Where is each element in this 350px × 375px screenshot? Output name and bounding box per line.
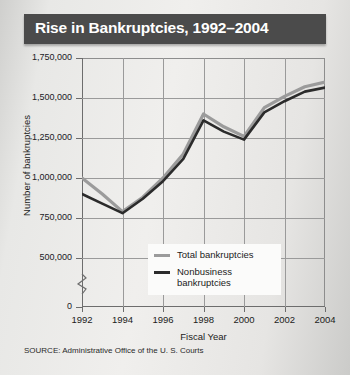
x-axis-tick xyxy=(123,307,124,312)
bankruptcies-chart-figure: Rise in Bankruptcies, 1992–2004 1,750,00… xyxy=(0,0,350,375)
page-title: Rise in Bankruptcies, 1992–2004 xyxy=(35,19,268,37)
series-line-total xyxy=(82,82,325,212)
y-axis-label: 0 xyxy=(6,301,72,311)
x-axis-tick xyxy=(285,307,286,312)
x-axis-tick xyxy=(204,307,205,312)
y-axis-label: 1,750,000 xyxy=(6,52,72,62)
y-axis-label: 1,000,000 xyxy=(6,172,72,182)
x-axis-label: 2004 xyxy=(303,314,347,325)
x-axis-tick xyxy=(244,307,245,312)
x-axis-tick xyxy=(325,307,326,312)
x-axis-tick xyxy=(163,307,164,312)
x-axis-tick xyxy=(82,307,83,312)
y-axis-label: 750,000 xyxy=(6,212,72,222)
legend-swatch-nonbusiness-icon xyxy=(154,271,170,274)
source-note: SOURCE: Administrative Office of the U. … xyxy=(24,346,203,355)
x-axis-title: Fiscal Year xyxy=(82,331,325,342)
y-axis-label: 500,000 xyxy=(6,252,72,262)
legend-label-nonbusiness: Nonbusiness bankruptcies xyxy=(177,266,273,289)
x-axis-label: 1998 xyxy=(182,314,226,325)
chart-legend: Total bankruptcies Nonbusiness bankruptc… xyxy=(148,244,281,295)
legend-item-nonbusiness: Nonbusiness bankruptcies xyxy=(154,266,273,289)
x-axis-label: 2002 xyxy=(263,314,307,325)
series-line-nonbusiness xyxy=(82,88,325,214)
x-axis-label: 2000 xyxy=(222,314,266,325)
y-axis-title: Number of bankruptcies xyxy=(21,96,32,236)
axis-break-zigzag-icon xyxy=(74,274,90,294)
legend-swatch-total-icon xyxy=(154,254,170,257)
x-axis-label: 1994 xyxy=(101,314,145,325)
legend-label-total: Total bankruptcies xyxy=(177,249,254,261)
chart-title-bar: Rise in Bankruptcies, 1992–2004 xyxy=(24,14,326,44)
y-axis-label: 1,250,000 xyxy=(6,132,72,142)
x-axis-label: 1996 xyxy=(141,314,185,325)
x-axis-label: 1992 xyxy=(60,314,104,325)
legend-item-total: Total bankruptcies xyxy=(154,249,273,261)
y-axis-label: 1,500,000 xyxy=(6,92,72,102)
